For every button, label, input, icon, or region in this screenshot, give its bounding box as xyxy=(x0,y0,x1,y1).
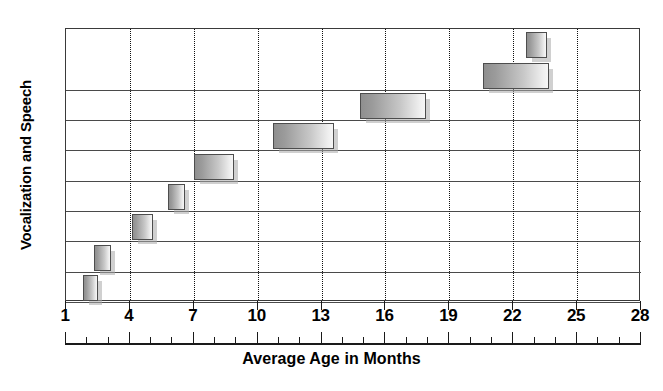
x-tick-label-25: 25 xyxy=(567,306,585,326)
row-separator-line xyxy=(66,90,641,91)
milestone-bar-6 xyxy=(273,123,335,149)
ruler-minor-tick-6 xyxy=(171,337,172,345)
x-tick-label-4: 4 xyxy=(124,306,133,326)
row-separator-line xyxy=(66,150,641,151)
ruler-major-tick-19 xyxy=(448,332,449,345)
milestone-bar-8 xyxy=(483,63,549,89)
ruler-minor-tick-12 xyxy=(299,337,300,345)
gridline-10 xyxy=(258,29,259,300)
x-tick-label-7: 7 xyxy=(188,306,197,326)
row-separator-line xyxy=(66,211,641,212)
ruler-major-tick-16 xyxy=(384,332,385,345)
x-tick-label-10: 10 xyxy=(248,306,266,326)
milestone-bar-3 xyxy=(132,214,153,240)
ruler-major-tick-28 xyxy=(640,332,641,345)
ruler-major-tick-22 xyxy=(512,332,513,345)
ruler-major-tick-4 xyxy=(129,332,130,345)
milestone-bar-4 xyxy=(168,184,185,210)
plot-area xyxy=(65,28,640,301)
x-tick-label-19: 19 xyxy=(439,306,457,326)
ruler-minor-tick-21 xyxy=(491,337,492,345)
gridline-25 xyxy=(577,29,578,300)
ruler-minor-tick-27 xyxy=(619,337,620,345)
x-tick-label-16: 16 xyxy=(375,306,393,326)
ruler-minor-tick-9 xyxy=(235,337,236,345)
chart-container: Vocalization and Speech 1471013161922252… xyxy=(0,0,663,391)
ruler-major-tick-10 xyxy=(257,332,258,345)
row-separator-line xyxy=(66,272,641,273)
ruler-minor-tick-3 xyxy=(108,337,109,345)
ruler-minor-tick-8 xyxy=(214,337,215,345)
ruler-major-tick-7 xyxy=(193,332,194,345)
ruler-minor-tick-15 xyxy=(363,337,364,345)
gridline-16 xyxy=(385,29,386,300)
x-tick-label-22: 22 xyxy=(503,306,521,326)
ruler-minor-tick-17 xyxy=(406,337,407,345)
ruler-minor-tick-23 xyxy=(534,337,535,345)
ruler-minor-tick-18 xyxy=(427,337,428,345)
ruler-major-tick-1 xyxy=(65,332,66,345)
row-separator-line xyxy=(66,241,641,242)
gridline-13 xyxy=(322,29,323,300)
ruler-minor-tick-11 xyxy=(278,337,279,345)
ruler-minor-tick-24 xyxy=(555,337,556,345)
ruler-baseline xyxy=(65,343,640,345)
ruler-minor-tick-14 xyxy=(342,337,343,345)
x-axis-title: Average Age in Months xyxy=(0,350,663,368)
x-tick-label-1: 1 xyxy=(60,306,69,326)
row-separator-line xyxy=(66,120,641,121)
milestone-bar-7 xyxy=(360,93,426,119)
milestone-bar-5 xyxy=(194,154,234,180)
x-tick-label-13: 13 xyxy=(311,306,329,326)
ruler-minor-tick-2 xyxy=(86,337,87,345)
x-axis-ruler xyxy=(65,331,640,345)
row-separator-line xyxy=(66,181,641,182)
gridline-19 xyxy=(449,29,450,300)
ruler-minor-tick-26 xyxy=(597,337,598,345)
milestone-bar-2 xyxy=(94,245,111,271)
ruler-minor-tick-5 xyxy=(150,337,151,345)
milestone-bar-1 xyxy=(83,275,98,301)
milestone-bar-9 xyxy=(526,32,547,58)
x-tick-label-28: 28 xyxy=(631,306,649,326)
ruler-major-tick-25 xyxy=(576,332,577,345)
ruler-major-tick-13 xyxy=(321,332,322,345)
x-axis-tick-labels: 14710131619222528 xyxy=(0,306,663,330)
ruler-minor-tick-20 xyxy=(470,337,471,345)
gridline-4 xyxy=(130,29,131,300)
y-axis-title: Vocalization and Speech xyxy=(10,20,40,310)
